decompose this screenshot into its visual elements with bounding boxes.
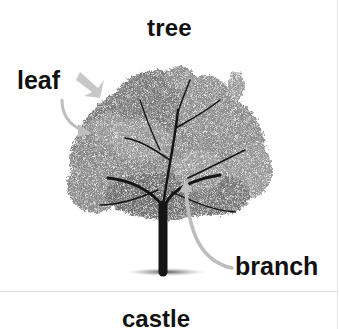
tree-card: tree [0, 0, 338, 292]
card-title-castle: castle [0, 305, 312, 329]
tree-illustration [0, 0, 339, 291]
label-branch: branch [235, 254, 318, 279]
label-leaf: leaf [17, 68, 60, 93]
leaf-arrow-short-icon [76, 72, 104, 98]
